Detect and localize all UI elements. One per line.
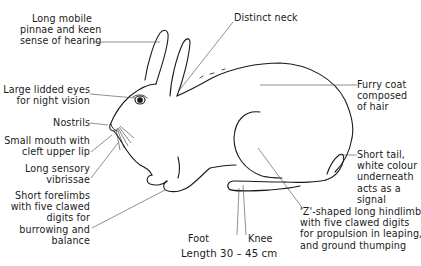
label-neck: Distinct neck bbox=[234, 12, 298, 23]
rabbit-diagram: Long mobile pinnae and keen sense of hea… bbox=[0, 0, 421, 266]
label-forelimbs: Short forelimbs with five clawed digits … bbox=[10, 190, 90, 246]
label-eyes: Large lidded eyes for night vision bbox=[0, 84, 90, 106]
label-knee: Knee bbox=[248, 233, 273, 244]
label-mouth: Small mouth with cleft upper lip bbox=[0, 135, 90, 157]
label-vibrissae: Long sensory vibrissae bbox=[10, 163, 90, 185]
label-foot: Foot bbox=[188, 233, 209, 244]
front-ear-outline bbox=[145, 30, 168, 84]
label-hindlimb: 'Z'-shaped long hindlimb with five clawe… bbox=[300, 206, 421, 251]
label-tail: Short tail, white colour underneath acts… bbox=[357, 149, 417, 205]
label-nostrils: Nostrils bbox=[40, 117, 90, 128]
back-ear-outline bbox=[170, 39, 190, 96]
label-ears: Long mobile pinnae and keen sense of hea… bbox=[20, 13, 92, 47]
leader-lines bbox=[90, 22, 357, 235]
caption-length: Length 30 – 45 cm bbox=[181, 248, 277, 259]
label-coat: Furry coat composed of hair bbox=[357, 79, 407, 113]
